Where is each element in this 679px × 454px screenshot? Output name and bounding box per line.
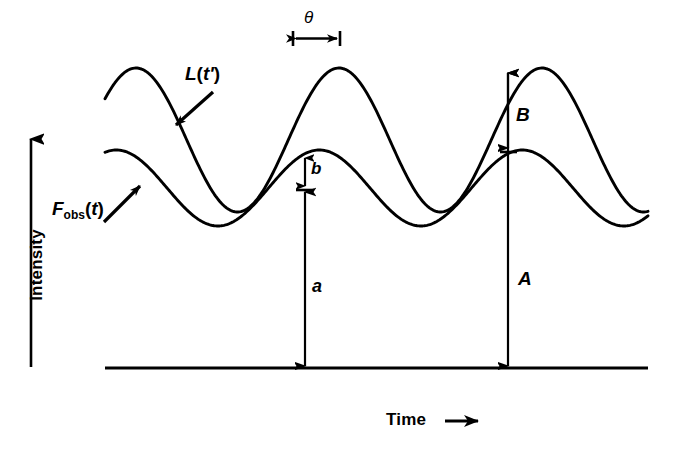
curve-label-observed-flux: Fobs(t) <box>52 198 104 222</box>
curve-label-L-paren-close: ) <box>214 63 220 84</box>
curve-label-L-var: t' <box>203 63 214 84</box>
curve-label-F-sub: obs <box>64 208 85 222</box>
leader-arrow-L <box>176 92 213 125</box>
marker-label-A: A <box>518 268 532 290</box>
figure-container: Intensity Time L(t') Fobs(t) θ a b A B <box>0 0 679 454</box>
marker-label-a: a <box>312 276 322 297</box>
figure-canvas <box>0 0 679 454</box>
curve-label-L-main: L <box>185 63 197 84</box>
curve-label-F-main: F <box>52 198 64 219</box>
curve-observed-flux <box>105 150 648 226</box>
curve-label-F-paren-close: ) <box>98 198 104 219</box>
y-axis-label: Intensity <box>27 210 47 320</box>
leader-arrow-F <box>104 186 140 222</box>
marker-label-B: B <box>516 104 530 126</box>
curve-label-luminosity: L(t') <box>185 63 220 85</box>
leader-arrow-L-icon <box>176 92 213 125</box>
marker-label-b: b <box>311 159 321 179</box>
marker-label-theta: θ <box>304 8 313 28</box>
leader-arrow-F-icon <box>104 186 140 222</box>
marker-theta <box>293 31 340 46</box>
curve-luminosity <box>105 68 648 212</box>
x-axis-label: Time <box>386 410 426 430</box>
